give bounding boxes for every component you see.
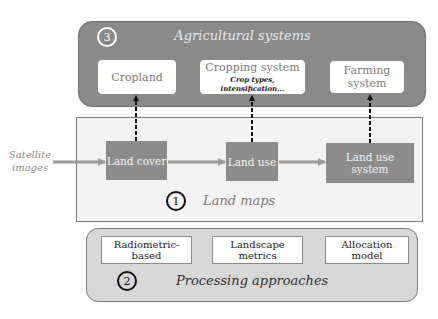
landscape-metrics-box: Landscape metrics (212, 236, 303, 264)
processing-approaches-title: Processing approaches (176, 273, 336, 288)
landscape-metrics-label: Landscape metrics (213, 239, 302, 261)
cropping-system-sublabel: Crop types, intensification... (200, 75, 305, 93)
satellite-images-line2: images (2, 161, 58, 174)
cropland-box: Cropland (97, 59, 177, 95)
step-1-circle: 1 (166, 191, 186, 211)
land-use-system-box: Land use system (326, 143, 414, 183)
farming-system-label: Farming system (330, 64, 404, 90)
satellite-images-line1: Satellite (2, 148, 58, 161)
cropping-system-box: Cropping system Crop types, intensificat… (199, 59, 306, 95)
land-cover-label: Land cover (107, 155, 166, 167)
farming-system-box: Farming system (329, 60, 405, 94)
land-maps-title: Land maps (203, 193, 283, 208)
step-2-circle: 2 (117, 271, 137, 291)
cropland-label: Cropland (111, 71, 163, 84)
allocation-model-label: Allocation model (326, 239, 408, 261)
satellite-images-label: Satellite images (2, 148, 58, 174)
agricultural-systems-title: Agricultural systems (150, 28, 335, 43)
land-use-label: Land use (228, 156, 276, 168)
allocation-model-box: Allocation model (325, 236, 409, 264)
radiometric-based-label: Radiometric-based (102, 239, 191, 261)
radiometric-based-box: Radiometric-based (101, 236, 192, 264)
step-3-circle: 3 (97, 27, 117, 47)
land-cover-box: Land cover (106, 141, 167, 180)
land-use-box: Land use (226, 142, 278, 181)
land-use-system-label: Land use system (326, 151, 414, 175)
cropping-system-label: Cropping system (205, 61, 299, 74)
